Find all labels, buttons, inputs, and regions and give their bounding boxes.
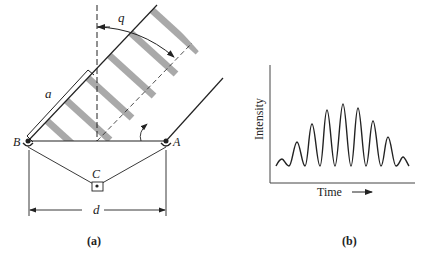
figure-canvas: q a B A C d (a) Intensity Time (b) bbox=[0, 0, 431, 257]
distance-label: d bbox=[93, 202, 100, 217]
intensity-curve bbox=[276, 104, 409, 166]
figure-a-caption: (a) bbox=[87, 234, 101, 248]
angle-arc bbox=[97, 27, 174, 57]
beam-edge-right bbox=[166, 78, 223, 141]
angle-label: q bbox=[118, 10, 125, 25]
point-a-label: A bbox=[172, 135, 181, 149]
figure-b-caption: (b) bbox=[342, 234, 357, 248]
point-c-label: C bbox=[92, 167, 101, 181]
receiver-a bbox=[164, 139, 169, 144]
y-axis-label: Intensity bbox=[252, 98, 266, 140]
x-axis-label: Time bbox=[317, 185, 342, 199]
wavefront-stripes bbox=[0, 0, 264, 160]
small-angle-arc bbox=[140, 124, 147, 141]
spacing-label: a bbox=[45, 86, 52, 101]
figure-b-chart: Intensity Time (b) bbox=[252, 65, 415, 248]
figure-a-diagram: q a B A C d (a) bbox=[0, 0, 264, 248]
receiver-b bbox=[26, 139, 31, 144]
point-b-label: B bbox=[13, 135, 21, 149]
